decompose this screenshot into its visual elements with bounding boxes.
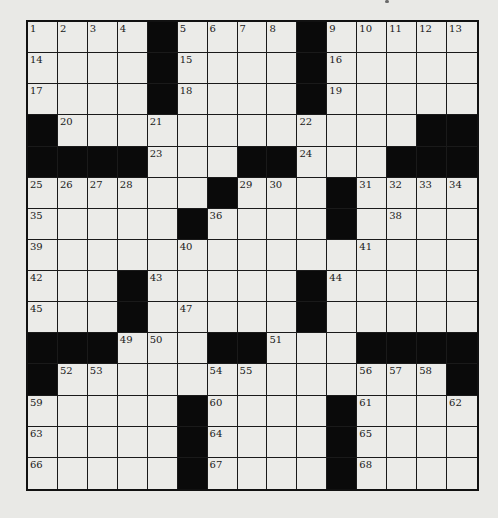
grid-cell[interactable] (267, 271, 297, 302)
grid-cell[interactable]: 64 (208, 427, 238, 458)
grid-cell[interactable] (447, 271, 477, 302)
grid-cell[interactable]: 56 (357, 364, 387, 395)
grid-cell[interactable] (267, 458, 297, 489)
grid-cell[interactable] (208, 53, 238, 84)
grid-cell[interactable] (178, 271, 208, 302)
grid-cell[interactable] (208, 84, 238, 115)
grid-cell[interactable]: 27 (88, 178, 118, 209)
grid-cell[interactable]: 4 (118, 22, 148, 53)
grid-cell[interactable] (118, 240, 148, 271)
grid-cell[interactable] (118, 458, 148, 489)
grid-cell[interactable]: 44 (327, 271, 357, 302)
grid-cell[interactable] (58, 271, 88, 302)
grid-cell[interactable] (58, 302, 88, 333)
grid-cell[interactable] (387, 302, 417, 333)
grid-cell[interactable] (148, 178, 178, 209)
grid-cell[interactable] (417, 240, 447, 271)
grid-cell[interactable] (267, 53, 297, 84)
grid-cell[interactable] (327, 364, 357, 395)
grid-cell[interactable] (357, 147, 387, 178)
grid-cell[interactable] (148, 209, 178, 240)
grid-cell[interactable] (417, 396, 447, 427)
grid-cell[interactable] (88, 271, 118, 302)
grid-cell[interactable] (357, 53, 387, 84)
grid-cell[interactable]: 47 (178, 302, 208, 333)
grid-cell[interactable] (118, 364, 148, 395)
grid-cell[interactable] (118, 427, 148, 458)
grid-cell[interactable]: 39 (28, 240, 58, 271)
grid-cell[interactable]: 38 (387, 209, 417, 240)
grid-cell[interactable] (238, 240, 268, 271)
grid-cell[interactable] (327, 302, 357, 333)
grid-cell[interactable] (58, 458, 88, 489)
grid-cell[interactable]: 42 (28, 271, 58, 302)
grid-cell[interactable]: 17 (28, 84, 58, 115)
grid-cell[interactable]: 2 (58, 22, 88, 53)
grid-cell[interactable]: 68 (357, 458, 387, 489)
grid-cell[interactable]: 9 (327, 22, 357, 53)
grid-cell[interactable]: 13 (447, 22, 477, 53)
grid-cell[interactable] (297, 364, 327, 395)
grid-cell[interactable]: 5 (178, 22, 208, 53)
grid-cell[interactable] (447, 427, 477, 458)
grid-cell[interactable] (238, 271, 268, 302)
grid-cell[interactable]: 31 (357, 178, 387, 209)
grid-cell[interactable] (178, 333, 208, 364)
grid-cell[interactable] (267, 209, 297, 240)
grid-cell[interactable] (208, 302, 238, 333)
grid-cell[interactable]: 26 (58, 178, 88, 209)
grid-cell[interactable]: 60 (208, 396, 238, 427)
grid-cell[interactable]: 28 (118, 178, 148, 209)
grid-cell[interactable]: 62 (447, 396, 477, 427)
grid-cell[interactable] (447, 458, 477, 489)
grid-cell[interactable] (327, 240, 357, 271)
grid-cell[interactable] (58, 240, 88, 271)
grid-cell[interactable]: 53 (88, 364, 118, 395)
grid-cell[interactable] (88, 115, 118, 146)
grid-cell[interactable] (357, 271, 387, 302)
grid-cell[interactable]: 63 (28, 427, 58, 458)
grid-cell[interactable] (238, 115, 268, 146)
grid-cell[interactable] (238, 427, 268, 458)
grid-cell[interactable] (447, 209, 477, 240)
grid-cell[interactable] (267, 364, 297, 395)
grid-cell[interactable] (58, 84, 88, 115)
grid-cell[interactable] (208, 147, 238, 178)
grid-cell[interactable] (387, 396, 417, 427)
grid-cell[interactable]: 67 (208, 458, 238, 489)
grid-cell[interactable] (297, 333, 327, 364)
grid-cell[interactable]: 52 (58, 364, 88, 395)
grid-cell[interactable] (327, 147, 357, 178)
grid-cell[interactable]: 8 (267, 22, 297, 53)
grid-cell[interactable]: 40 (178, 240, 208, 271)
grid-cell[interactable] (148, 458, 178, 489)
grid-cell[interactable] (447, 240, 477, 271)
grid-cell[interactable] (387, 115, 417, 146)
grid-cell[interactable] (357, 209, 387, 240)
grid-cell[interactable] (417, 209, 447, 240)
grid-cell[interactable]: 58 (417, 364, 447, 395)
grid-cell[interactable] (238, 209, 268, 240)
grid-cell[interactable] (297, 209, 327, 240)
grid-cell[interactable]: 12 (417, 22, 447, 53)
grid-cell[interactable] (118, 84, 148, 115)
grid-cell[interactable] (178, 178, 208, 209)
grid-cell[interactable] (178, 147, 208, 178)
grid-cell[interactable] (417, 53, 447, 84)
grid-cell[interactable]: 24 (297, 147, 327, 178)
grid-cell[interactable] (178, 364, 208, 395)
grid-cell[interactable]: 20 (58, 115, 88, 146)
grid-cell[interactable] (417, 458, 447, 489)
grid-cell[interactable] (148, 240, 178, 271)
grid-cell[interactable]: 3 (88, 22, 118, 53)
grid-cell[interactable]: 1 (28, 22, 58, 53)
grid-cell[interactable]: 66 (28, 458, 58, 489)
grid-cell[interactable] (387, 53, 417, 84)
grid-cell[interactable] (238, 458, 268, 489)
grid-cell[interactable]: 41 (357, 240, 387, 271)
grid-cell[interactable]: 50 (148, 333, 178, 364)
grid-cell[interactable]: 6 (208, 22, 238, 53)
grid-cell[interactable] (297, 458, 327, 489)
grid-cell[interactable] (238, 396, 268, 427)
grid-cell[interactable]: 57 (387, 364, 417, 395)
